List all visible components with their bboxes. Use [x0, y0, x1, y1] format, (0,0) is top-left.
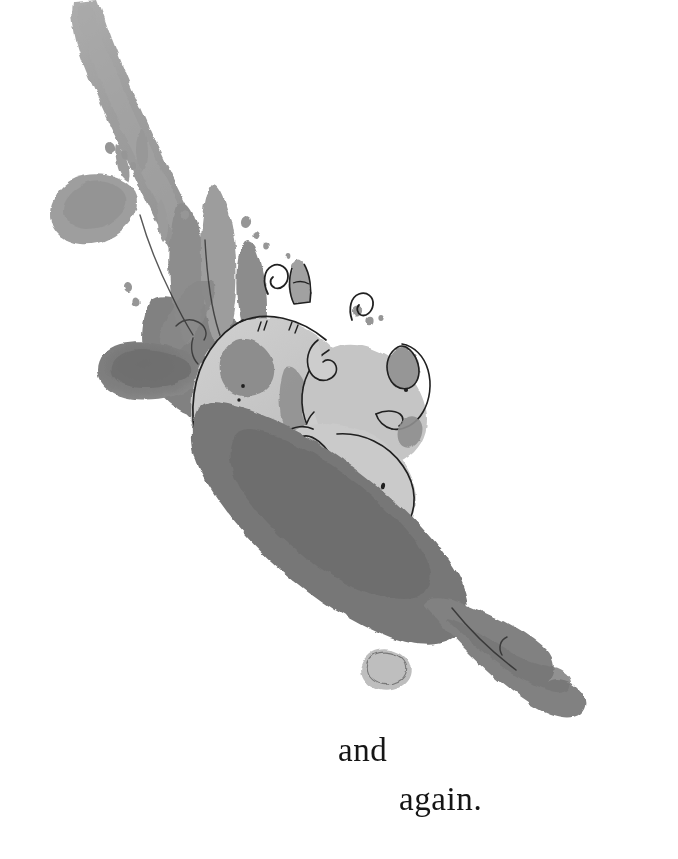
- pigs-mud-slide-illustration: [0, 0, 678, 859]
- picture-book-page: and again.: [0, 0, 678, 859]
